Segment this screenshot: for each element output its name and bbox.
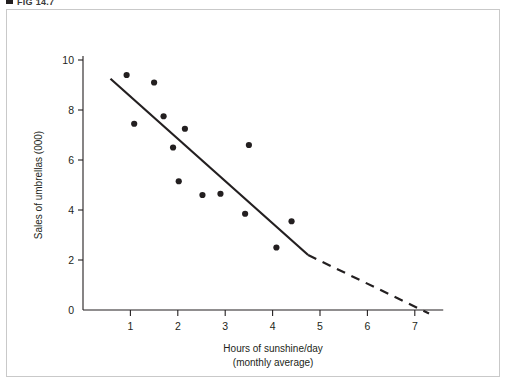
x-axis-title-line2: (monthly average) (233, 357, 314, 368)
x-tick-label-6: 6 (364, 320, 370, 332)
data-point-3 (160, 113, 166, 119)
y-tick-label-4: 4 (68, 204, 74, 216)
data-point-1 (131, 121, 137, 127)
data-point-11 (273, 244, 279, 250)
data-point-10 (246, 142, 252, 148)
y-axis: 0246810 (62, 54, 83, 316)
data-point-5 (182, 126, 188, 132)
x-tick-label-1: 1 (127, 320, 133, 332)
x-axis-title-line1: Hours of sunshine/day (223, 343, 323, 354)
x-axis: 1234567 (83, 310, 443, 332)
x-tick-label-4: 4 (270, 320, 276, 332)
data-point-6 (176, 178, 182, 184)
x-tick-label-2: 2 (175, 320, 181, 332)
trend-line-dashed (308, 255, 429, 314)
data-point-4 (170, 144, 176, 150)
data-point-9 (242, 211, 248, 217)
y-axis-title: Sales of umbrellas (000) (33, 131, 44, 239)
x-tick-label-5: 5 (317, 320, 323, 332)
y-tick-label-8: 8 (68, 104, 74, 116)
trend-line-solid (110, 79, 308, 255)
data-points (124, 72, 295, 251)
x-tick-label-7: 7 (412, 320, 418, 332)
data-point-7 (199, 192, 205, 198)
y-tick-label-2: 2 (68, 254, 74, 266)
scatter-chart: 0246810 1234567 Hours of sunshine/day(mo… (0, 0, 508, 389)
data-point-8 (217, 191, 223, 197)
data-point-2 (151, 79, 157, 85)
data-point-0 (124, 72, 130, 78)
y-tick-label-0: 0 (68, 304, 74, 316)
x-tick-label-3: 3 (222, 320, 228, 332)
data-point-12 (288, 218, 294, 224)
y-tick-label-10: 10 (62, 54, 74, 66)
axis-titles: Hours of sunshine/day(monthly average)Sa… (33, 131, 323, 368)
y-tick-label-6: 6 (68, 154, 74, 166)
trend-line (110, 79, 429, 314)
